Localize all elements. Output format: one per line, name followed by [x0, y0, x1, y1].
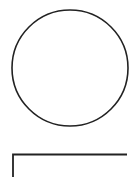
corner-bracket-shape [13, 155, 127, 178]
circle-shape [12, 10, 128, 126]
diagram-canvas [0, 0, 138, 193]
